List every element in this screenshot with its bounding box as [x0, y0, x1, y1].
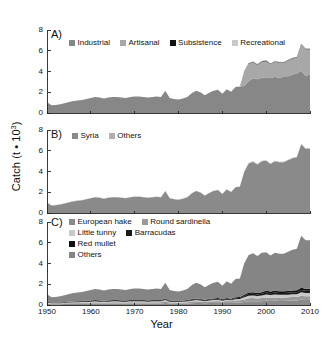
- legend-swatch-syria-icon: [72, 133, 78, 139]
- legend-label: Others: [78, 250, 102, 260]
- legend-swatch-artisanal-icon: [120, 40, 126, 46]
- panel-b-plot: [47, 130, 310, 213]
- y-tick-label: 2: [23, 280, 43, 288]
- legend-item-european-hake[interactable]: European hake: [69, 217, 132, 227]
- legend-label: Syria: [81, 131, 99, 141]
- legend-swatch-barracudas-icon: [126, 230, 132, 236]
- legend-row: Little tunnyBarracudas: [69, 228, 217, 238]
- legend-label: Recreational: [240, 38, 285, 48]
- legend-label: European hake: [78, 217, 132, 227]
- legend-row: European hakeRound sardinella: [69, 217, 217, 227]
- panel-a-letter: A): [51, 28, 62, 40]
- panel-b-legend: SyriaOthers: [72, 131, 148, 142]
- legend-label: Red mullet: [78, 239, 116, 249]
- y-tick-label: 6: [23, 147, 43, 155]
- legend-row: SyriaOthers: [72, 131, 148, 141]
- y-tick-label: 4: [23, 68, 43, 76]
- legend-row: IndustrialArtisanalSubsistenceRecreation…: [69, 38, 292, 48]
- y-tick-label: 2: [23, 188, 43, 196]
- panel-c-legend: European hakeRound sardinellaLittle tunn…: [69, 217, 217, 261]
- legend-label: Little tunny: [78, 228, 117, 238]
- y-tick-label: 4: [23, 260, 43, 268]
- legend-swatch-red-mullet-icon: [69, 241, 75, 247]
- panel-c: C) European hakeRound sardinellaLittle t…: [47, 222, 310, 305]
- legend-item-syria[interactable]: Syria: [72, 131, 99, 141]
- y-tick-label: 2: [23, 88, 43, 96]
- x-tick-label: 1990: [213, 308, 231, 316]
- legend-label: Others: [117, 131, 141, 141]
- legend-item-artisanal[interactable]: Artisanal: [120, 38, 160, 48]
- legend-item-barracudas[interactable]: Barracudas: [126, 228, 175, 238]
- y-tick-label: 0: [23, 109, 43, 117]
- panel-a: A) IndustrialArtisanalSubsistenceRecreat…: [47, 30, 310, 113]
- y-axis-title: Catch (t • 103): [10, 96, 23, 216]
- legend-label: Barracudas: [135, 228, 176, 238]
- legend-item-little-tunny[interactable]: Little tunny: [69, 228, 116, 238]
- x-tick-label: 1970: [126, 308, 144, 316]
- legend-swatch-industrial-icon: [69, 40, 75, 46]
- legend-item-subsistence[interactable]: Subsistence: [170, 38, 222, 48]
- legend-swatch-subsistence-icon: [170, 40, 176, 46]
- legend-label: Round sardinella: [150, 217, 210, 227]
- legend-swatch-others-icon: [109, 133, 115, 139]
- legend-swatch-recreational-icon: [232, 40, 238, 46]
- y-tick-label: 4: [23, 168, 43, 176]
- panel-b-axes: [47, 130, 311, 219]
- y-tick-label: 8: [23, 126, 43, 134]
- legend-item-round-sardinella[interactable]: Round sardinella: [142, 217, 211, 227]
- legend-label: Artisanal: [128, 38, 159, 48]
- x-tick-label: 1960: [82, 308, 100, 316]
- panel-a-legend: IndustrialArtisanalSubsistenceRecreation…: [69, 38, 292, 49]
- x-tick-label: 2010: [301, 308, 319, 316]
- legend-item-recreational[interactable]: Recreational: [232, 38, 285, 48]
- panel-b-letter: B): [51, 128, 62, 140]
- y-tick-label: 8: [23, 26, 43, 34]
- legend-swatch-round-sardinella-icon: [142, 219, 148, 225]
- x-axis-title: Year: [0, 318, 323, 330]
- legend-item-others[interactable]: Others: [69, 250, 102, 260]
- legend-swatch-others-icon: [69, 252, 75, 258]
- y-tick-label: 6: [23, 47, 43, 55]
- y-tick-label: 8: [23, 218, 43, 226]
- panel-c-letter: C): [51, 216, 63, 228]
- legend-row: Others: [69, 250, 217, 260]
- x-tick-label: 2000: [257, 308, 275, 316]
- legend-item-red-mullet[interactable]: Red mullet: [69, 239, 116, 249]
- figure-catch-timeseries: Catch (t • 103) Year A) IndustrialArtisa…: [0, 0, 323, 337]
- legend-label: Subsistence: [178, 38, 222, 48]
- legend-swatch-european-hake-icon: [69, 219, 75, 225]
- panel-b: B) SyriaOthers 02468: [47, 130, 310, 213]
- x-tick-label: 1950: [38, 308, 56, 316]
- legend-row: Red mullet: [69, 239, 217, 249]
- legend-label: Industrial: [78, 38, 110, 48]
- legend-swatch-little-tunny-icon: [69, 230, 75, 236]
- legend-item-industrial[interactable]: Industrial: [69, 38, 110, 48]
- y-tick-label: 0: [23, 209, 43, 217]
- y-tick-label: 6: [23, 239, 43, 247]
- legend-item-others[interactable]: Others: [109, 131, 142, 141]
- x-tick-label: 1980: [170, 308, 188, 316]
